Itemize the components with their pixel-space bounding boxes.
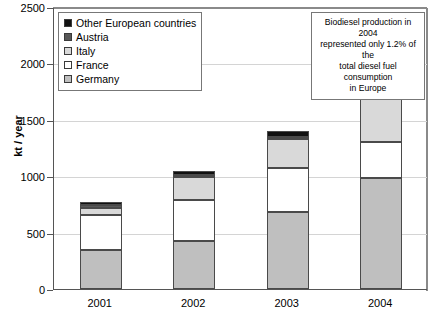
- y-axis-tick-mark: [47, 64, 53, 65]
- bar-segment[interactable]: [173, 241, 215, 290]
- annotation-line-1: Biodiesel production in 2004: [316, 17, 420, 39]
- legend-item-label: Austria: [76, 32, 109, 43]
- x-axis-tick-label: 2001: [65, 297, 135, 309]
- annotation-line-3: total diesel fuel consumption: [316, 61, 420, 83]
- bar-segment[interactable]: [267, 168, 309, 212]
- bar-segment[interactable]: [360, 142, 402, 178]
- y-axis-tick-mark: [47, 290, 53, 291]
- bar-segment[interactable]: [80, 205, 122, 208]
- legend-item-label: France: [76, 60, 109, 71]
- bar-segment[interactable]: [173, 171, 215, 174]
- legend-swatch-icon: [64, 61, 72, 69]
- y-axis-tick-label: 0: [5, 285, 45, 295]
- y-axis-tick-mark: [47, 177, 53, 178]
- y-axis-tick-mark: [47, 8, 53, 9]
- y-axis-tick-mark: [47, 121, 53, 122]
- y-axis-tick-mark: [47, 234, 53, 235]
- chart-legend: Other European countriesAustriaItalyFran…: [58, 12, 202, 91]
- bar-segment[interactable]: [80, 208, 122, 215]
- legend-item-label: Other European countries: [76, 18, 196, 29]
- bar-segment[interactable]: [173, 175, 215, 178]
- legend-swatch-icon: [64, 47, 72, 55]
- x-axis-tick-label: 2004: [345, 297, 415, 309]
- legend-item[interactable]: France: [64, 58, 196, 72]
- legend-swatch-icon: [64, 75, 72, 83]
- chart-figure: kt / year 25002000150010005000 200120022…: [0, 0, 444, 324]
- bar-segment[interactable]: [360, 178, 402, 289]
- bar-segment[interactable]: [267, 212, 309, 289]
- bar-segment[interactable]: [173, 200, 215, 241]
- bar-segment[interactable]: [360, 97, 402, 142]
- bar-segment[interactable]: [267, 131, 309, 137]
- bar-segment[interactable]: [173, 177, 215, 200]
- legend-item[interactable]: Germany: [64, 72, 196, 86]
- y-axis-tick-labels: 25002000150010005000: [0, 0, 45, 324]
- figure-caption: [2, 316, 442, 324]
- x-axis-tick-label: 2002: [158, 297, 228, 309]
- legend-swatch-icon: [64, 33, 72, 41]
- bar-segment[interactable]: [80, 215, 122, 250]
- bar-segment[interactable]: [267, 139, 309, 168]
- legend-item[interactable]: Other European countries: [64, 16, 196, 30]
- bar-segment[interactable]: [80, 250, 122, 289]
- annotation-line-4: in Europe: [316, 83, 420, 94]
- annotation-line-2: represented only 1.2% of the: [316, 39, 420, 61]
- bar-segment[interactable]: [267, 137, 309, 139]
- bar-group[interactable]: [267, 7, 309, 289]
- legend-item[interactable]: Italy: [64, 44, 196, 58]
- x-axis-tick-label: 2003: [252, 297, 322, 309]
- y-axis-tick-label: 1000: [5, 172, 45, 182]
- legend-item-label: Germany: [76, 74, 119, 85]
- annotation-box: Biodiesel production in 2004 represented…: [311, 12, 425, 100]
- legend-swatch-icon: [64, 19, 72, 27]
- y-axis-tick-label: 2000: [5, 59, 45, 69]
- legend-item-label: Italy: [76, 46, 95, 57]
- bar-segment[interactable]: [80, 202, 122, 205]
- y-axis-tick-label: 1500: [5, 116, 45, 126]
- y-axis-tick-label: 500: [5, 229, 45, 239]
- legend-item[interactable]: Austria: [64, 30, 196, 44]
- y-axis-tick-label: 2500: [5, 3, 45, 13]
